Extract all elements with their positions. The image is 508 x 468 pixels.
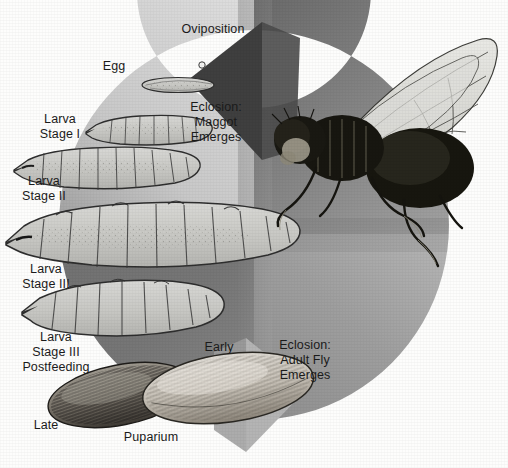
label-larva-stage-2: Larva Stage II: [8, 174, 80, 204]
arrowhead-top-shade: [262, 22, 300, 160]
label-eclosion-adult: Eclosion: Adult Fly Emerges: [258, 338, 352, 383]
label-puparium: Puparium: [108, 430, 194, 445]
label-larva-stage-3-postfeeding: Larva Stage III Postfeeding: [6, 330, 106, 375]
label-late: Late: [22, 418, 70, 433]
label-eclosion-maggot: Eclosion: Maggot Emerges: [168, 100, 264, 145]
arrowhead-bottom-shade: [214, 338, 246, 452]
label-larva-stage-3: Larva Stage III: [8, 262, 84, 292]
fly-life-cycle-diagram: Oviposition Egg Eclosion: Maggot Emerges…: [0, 0, 508, 468]
label-early: Early: [190, 340, 248, 355]
label-oviposition: Oviposition: [158, 22, 268, 37]
cycle-arrow-ring: [0, 0, 508, 468]
label-larva-stage-1: Larva Stage I: [24, 112, 96, 142]
label-egg: Egg: [86, 59, 142, 74]
